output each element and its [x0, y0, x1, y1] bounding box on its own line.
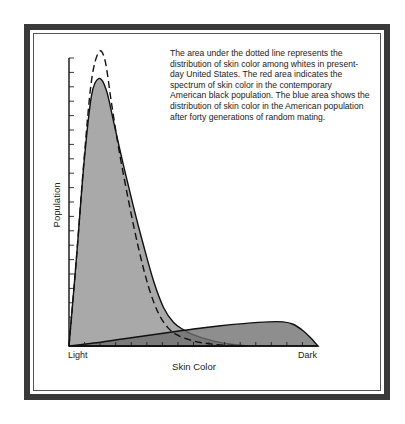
x-label-dark: Dark	[298, 350, 318, 360]
x-axis-title: Skin Color	[172, 361, 216, 372]
x-label-light: Light	[68, 350, 88, 360]
chart-annotation: The area under the dotted line represent…	[170, 48, 370, 122]
y-axis-title: Population	[51, 183, 62, 228]
